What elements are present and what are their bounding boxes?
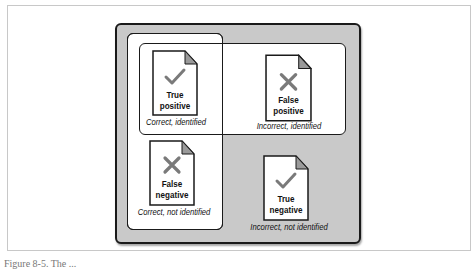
- cell-title: False negative: [152, 178, 191, 200]
- cell-title: True positive: [155, 89, 194, 111]
- false-negative-caption: Correct, not identified: [133, 207, 215, 217]
- figure-caption: Figure 8-5. The ...: [4, 258, 76, 269]
- false-positive-document: False positive: [265, 54, 312, 122]
- true-positive-caption: Correct, identified: [137, 117, 215, 127]
- cell-title: False positive: [269, 94, 309, 116]
- false-negative-document: False negative: [149, 140, 195, 206]
- true-negative-document: True negative: [263, 155, 309, 221]
- true-negative-caption: Incorrect, not identified: [244, 222, 334, 232]
- false-positive-caption: Incorrect, identified: [247, 121, 330, 131]
- cell-title: True negative: [266, 193, 305, 215]
- true-positive-document: True positive: [152, 50, 198, 116]
